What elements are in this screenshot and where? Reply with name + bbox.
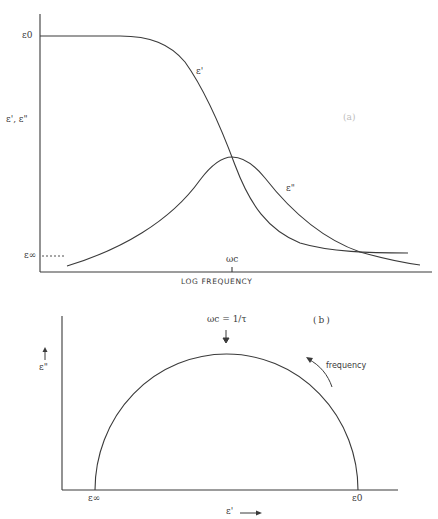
panel-a-label: (a) <box>343 112 355 122</box>
panel-b-x-arrow-icon <box>240 511 262 516</box>
epsilon-double-prime-curve-label: ε" <box>286 183 295 193</box>
omega-c-tick-label: ωc <box>226 254 238 264</box>
epsilon-prime-curve-label: ε' <box>196 66 203 76</box>
epsilon-inf-x-tick-label: ε∞ <box>88 493 100 503</box>
epsilon-double-prime-curve <box>67 157 420 266</box>
peak-arrow-icon <box>223 330 229 343</box>
panel-b-y-axis-label: ε" <box>39 362 48 372</box>
frequency-direction-label: frequency <box>326 361 366 370</box>
panel-b-label: (b) <box>313 315 332 325</box>
peak-annotation-label: ωc = 1/τ <box>207 314 246 324</box>
panel-a-y-axis-label: ε', ε" <box>6 114 28 124</box>
epsilon-zero-x-tick-label: ε0 <box>352 493 362 503</box>
dielectric-relaxation-figure <box>0 0 438 519</box>
panel-a-x-axis-label: LOG FREQUENCY <box>181 277 253 286</box>
epsilon-prime-curve <box>40 36 408 253</box>
panel-b-axes <box>62 316 398 490</box>
cole-cole-semicircle <box>95 354 358 490</box>
panel-b-x-axis-label: ε' <box>226 506 233 516</box>
epsilon-inf-label: ε∞ <box>24 250 36 260</box>
panel-b-y-arrow-icon <box>43 347 48 360</box>
epsilon-zero-label: ε0 <box>22 30 32 40</box>
panel-a-axes <box>40 14 432 272</box>
